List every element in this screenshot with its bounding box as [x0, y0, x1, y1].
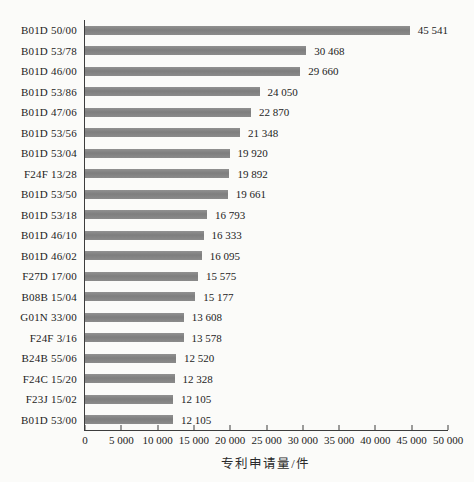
value-label: 16 793 [215, 209, 245, 221]
category-label: F24C 15/20 [23, 373, 77, 385]
category-label: B01D 47/06 [21, 106, 77, 118]
bar-row: B08B 15/0415 177 [85, 287, 448, 308]
x-axis-tick-label: 25 000 [251, 434, 281, 446]
x-axis-tick [302, 425, 303, 430]
x-axis-tick [448, 425, 449, 430]
bar-row: B01D 46/0216 095 [85, 246, 448, 267]
category-label: B08B 15/04 [22, 291, 77, 303]
category-label: B01D 46/02 [21, 250, 77, 262]
value-label: 19 920 [238, 147, 268, 159]
bar [85, 108, 251, 117]
bar-row: F24F 13/2819 892 [85, 164, 448, 185]
category-label: B01D 53/04 [21, 147, 77, 159]
x-axis-title: 专利申请量/件 [84, 453, 447, 472]
bar-row: F27D 17/0015 575 [85, 266, 448, 287]
bar [85, 46, 306, 55]
bar [85, 128, 240, 137]
bar-row: B01D 46/0029 660 [85, 61, 448, 82]
value-label: 13 578 [192, 332, 222, 344]
bar [85, 190, 228, 199]
x-axis-tick-label: 45 000 [397, 434, 427, 446]
x-axis-tick-label: 30 000 [288, 434, 318, 446]
bar-row: B01D 53/5621 348 [85, 123, 448, 144]
bar [85, 149, 230, 158]
bar-row: G01N 33/0013 608 [85, 307, 448, 328]
value-label: 45 541 [418, 24, 448, 36]
bar [85, 313, 184, 322]
x-axis-tick [266, 425, 267, 430]
value-label: 12 105 [181, 393, 211, 405]
bar-row: F23J 15/0212 105 [85, 389, 448, 410]
bar-row: F24C 15/2012 328 [85, 369, 448, 390]
bar [85, 272, 198, 281]
value-label: 12 328 [183, 373, 213, 385]
plot-area: B01D 50/0045 541B01D 53/7830 468B01D 46/… [84, 20, 448, 431]
bar [85, 87, 260, 96]
bar-row: B01D 53/5019 661 [85, 184, 448, 205]
bar-row: B01D 53/1816 793 [85, 205, 448, 226]
category-label: B01D 53/00 [21, 414, 77, 426]
x-axis-tick [157, 425, 158, 430]
category-label: G01N 33/00 [20, 311, 77, 323]
bar [85, 374, 175, 383]
bar [85, 292, 195, 301]
x-axis-tick-label: 20 000 [215, 434, 245, 446]
x-axis-tick-label: 10 000 [142, 434, 172, 446]
x-axis-tick-label: 35 000 [324, 434, 354, 446]
bar [85, 333, 184, 342]
bar [85, 67, 300, 76]
bar [85, 26, 410, 35]
x-axis-tick-label: 15 000 [179, 434, 209, 446]
category-label: B01D 53/50 [21, 188, 77, 200]
x-axis-tick [375, 425, 376, 430]
x-axis-tick [230, 425, 231, 430]
x-axis-tick-label: 5 000 [109, 434, 134, 446]
bar [85, 169, 229, 178]
bar-row: B01D 53/0419 920 [85, 143, 448, 164]
bar [85, 354, 176, 363]
x-axis-tick [121, 425, 122, 430]
value-label: 15 177 [203, 291, 233, 303]
value-label: 12 520 [184, 352, 214, 364]
patent-bar-chart: B01D 50/0045 541B01D 53/7830 468B01D 46/… [0, 0, 474, 482]
bar [85, 395, 173, 404]
bar-row: B01D 53/8624 050 [85, 82, 448, 103]
x-axis-tick-label: 0 [82, 434, 88, 446]
value-label: 12 105 [181, 414, 211, 426]
bar-row: B01D 50/0045 541 [85, 20, 448, 41]
value-label: 30 468 [314, 45, 344, 57]
value-label: 22 870 [259, 106, 289, 118]
value-label: 19 892 [237, 168, 267, 180]
category-label: B01D 46/10 [21, 229, 77, 241]
category-label: B01D 53/18 [21, 209, 77, 221]
bar [85, 251, 202, 260]
category-label: B01D 46/00 [21, 65, 77, 77]
value-label: 24 050 [268, 86, 298, 98]
x-axis-tick [85, 425, 86, 430]
x-axis-tick-label: 50 000 [433, 434, 463, 446]
value-label: 21 348 [248, 127, 278, 139]
category-label: F23J 15/02 [26, 393, 77, 405]
category-label: B01D 53/78 [21, 45, 77, 57]
value-label: 16 333 [212, 229, 242, 241]
value-label: 15 575 [206, 270, 236, 282]
bar [85, 231, 204, 240]
x-axis-tick [193, 425, 194, 430]
bar [85, 210, 207, 219]
x-axis-tick [411, 425, 412, 430]
x-axis-tick [339, 425, 340, 430]
value-label: 19 661 [236, 188, 266, 200]
category-label: B01D 53/56 [21, 127, 77, 139]
category-label: F24F 13/28 [24, 168, 77, 180]
bar-row: B01D 47/0622 870 [85, 102, 448, 123]
value-label: 16 095 [210, 250, 240, 262]
bar [85, 415, 173, 424]
value-label: 29 660 [308, 65, 338, 77]
category-label: B01D 53/86 [21, 86, 77, 98]
category-label: B24B 55/06 [22, 352, 77, 364]
x-axis-tick-label: 40 000 [360, 434, 390, 446]
category-label: F24F 3/16 [30, 332, 77, 344]
bar-row: B01D 46/1016 333 [85, 225, 448, 246]
bar-row: F24F 3/1613 578 [85, 328, 448, 349]
category-label: F27D 17/00 [22, 270, 77, 282]
